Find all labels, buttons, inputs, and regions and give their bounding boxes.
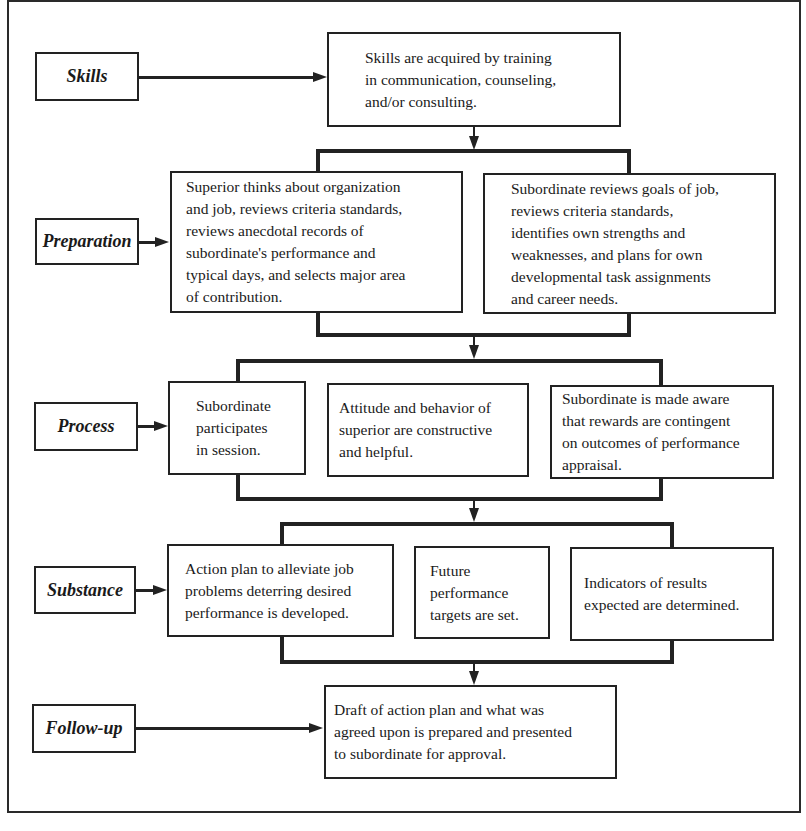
- bracket-leg: [670, 522, 674, 548]
- stage-label-preparation: Preparation: [35, 218, 139, 265]
- stage-label-follow-up: Follow-up: [32, 704, 136, 753]
- stage-label-text: Follow-up: [45, 718, 122, 739]
- arrow-down-icon: [469, 345, 479, 359]
- bracket-top-substance: [280, 522, 674, 526]
- follow-up-draft-box: Draft of action plan and what was agreed…: [324, 685, 617, 779]
- bracket-leg: [236, 359, 240, 382]
- bracket-bottom-substance: [280, 660, 674, 664]
- arrow-down-icon: [469, 508, 479, 522]
- bracket-leg: [627, 149, 631, 174]
- arrow-right-icon: [154, 421, 168, 431]
- bracket-leg: [280, 522, 284, 545]
- preparation-subordinate-box: Subordinate reviews goals of job, review…: [483, 173, 776, 314]
- preparation-superior-box: Superior thinks about organization and j…: [170, 171, 463, 313]
- bracket-bottom-process: [236, 497, 663, 501]
- stage-label-substance: Substance: [34, 566, 136, 614]
- process-attitude-box: Attitude and behavior of superior are co…: [327, 383, 529, 477]
- arrow-down-icon: [469, 136, 479, 150]
- arrow-down-icon: [469, 671, 479, 685]
- bracket-leg: [670, 640, 674, 664]
- stage-label-text: Skills: [66, 66, 107, 87]
- arrow-right-icon: [155, 237, 169, 247]
- stage-label-text: Substance: [47, 580, 123, 601]
- bracket-top-preparation: [316, 149, 631, 153]
- substance-indicators-box: Indicators of results expected are deter…: [570, 547, 774, 641]
- bracket-top-process: [236, 359, 663, 363]
- bracket-leg: [659, 359, 663, 385]
- bracket-leg: [627, 312, 631, 337]
- stage-label-text: Preparation: [42, 231, 131, 252]
- skills-box: Skills are acquired by training in commu…: [327, 32, 621, 127]
- substance-action-plan-box: Action plan to alleviate job problems de…: [167, 544, 394, 637]
- bracket-leg: [316, 311, 320, 337]
- bracket-leg: [316, 149, 320, 172]
- stage-label-process: Process: [34, 402, 138, 451]
- arrow-right-icon: [313, 72, 327, 82]
- arrow-right-icon: [153, 585, 167, 595]
- arrow-right-icon: [309, 723, 323, 733]
- process-rewards-box: Subordinate is made aware that rewards a…: [550, 385, 774, 479]
- connector-skills: [139, 76, 314, 79]
- substance-targets-box: Future performance targets are set.: [414, 546, 550, 639]
- stage-label-text: Process: [58, 416, 115, 437]
- bracket-leg: [236, 474, 240, 501]
- bracket-leg: [280, 636, 284, 664]
- stage-label-skills: Skills: [35, 52, 139, 101]
- bracket-leg: [659, 478, 663, 501]
- process-participation-box: Subordinate participates in session.: [168, 381, 306, 475]
- connector-follow-up: [136, 727, 311, 730]
